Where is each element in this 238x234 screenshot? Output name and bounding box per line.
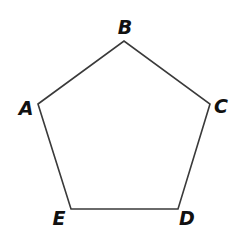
vertex-label-a: A — [17, 97, 34, 119]
pentagon-outline — [38, 41, 210, 209]
vertex-label-d: D — [179, 207, 195, 229]
vertex-label-b: B — [118, 16, 132, 38]
pentagon-diagram: A B C D E — [0, 0, 238, 234]
pentagon-svg: A B C D E — [0, 0, 238, 234]
vertex-label-e: E — [53, 207, 66, 229]
vertex-label-c: C — [214, 95, 228, 117]
